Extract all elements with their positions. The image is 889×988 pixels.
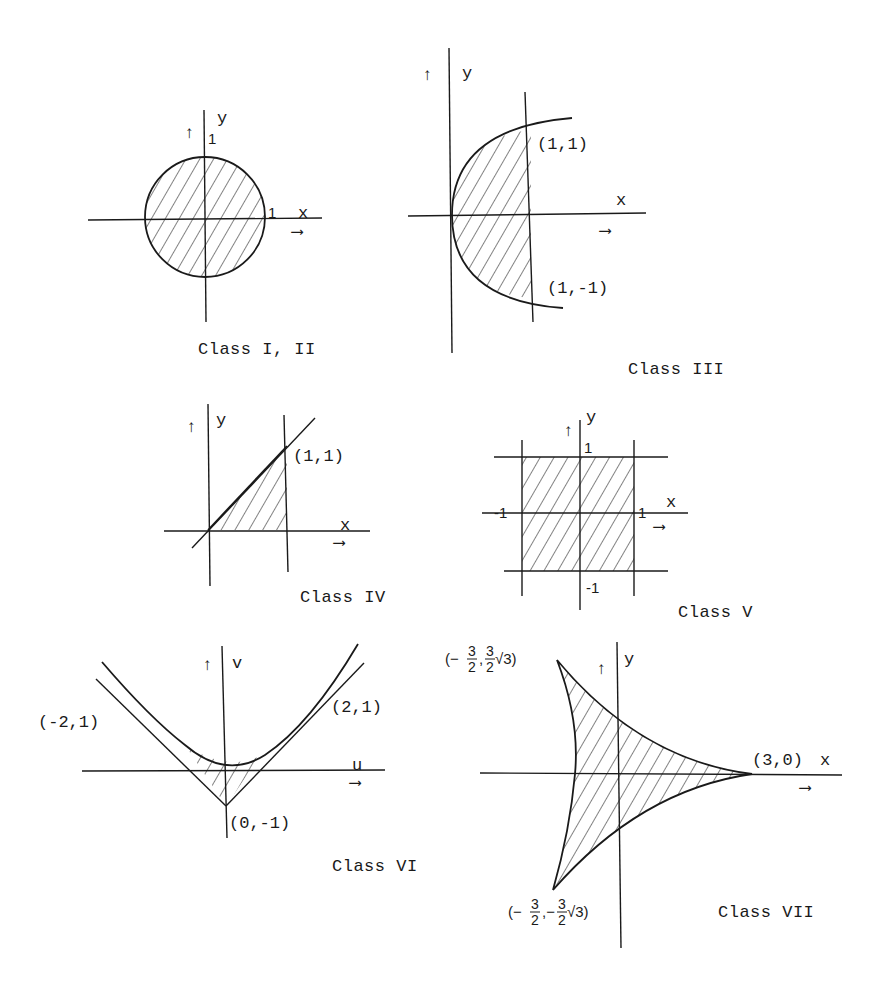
up-arrow-icon: ↑ — [596, 660, 606, 679]
hatched-region — [205, 440, 290, 532]
up-arrow-icon: ↑ — [202, 656, 212, 675]
point-label-1-1: (1,1) — [537, 135, 588, 154]
point-label-2-1: (2,1) — [331, 698, 382, 717]
svg-text:,−: ,− — [542, 903, 555, 920]
x-axis-label: x — [616, 191, 626, 210]
tick-x-1: 1 — [638, 504, 646, 521]
x-axis-label: x — [666, 493, 676, 512]
panel-class-5: ↑ ⟶ y x 1 -1 -1 1 Class V — [482, 408, 753, 622]
u-axis-label: u — [352, 756, 362, 775]
y-axis-label: y — [586, 408, 596, 427]
panel-class-4: ↑ ⟶ y x (1,1) Class IV — [164, 404, 386, 607]
v-axis — [222, 646, 227, 838]
right-arrow-icon: ⟶ — [333, 534, 346, 553]
y-axis-label: y — [624, 650, 634, 669]
u-axis — [82, 770, 385, 771]
v-axis-label: v — [232, 654, 242, 673]
tangent-right — [226, 663, 364, 806]
svg-text:(−: (− — [445, 650, 459, 667]
svg-text:2: 2 — [531, 912, 539, 928]
svg-text:,: , — [479, 650, 483, 667]
svg-text:3: 3 — [486, 643, 494, 659]
point-label-3-0: (3,0) — [752, 751, 803, 770]
svg-text:3: 3 — [531, 896, 539, 912]
parabola — [102, 644, 358, 765]
x-axis-label: x — [298, 204, 308, 223]
right-arrow-icon: ⟶ — [599, 222, 612, 241]
up-arrow-icon: ↑ — [563, 422, 573, 441]
panel-class-6: ↑ ⟶ v u (-2,1) (2,1) (0,-1) Class VI — [38, 644, 418, 876]
hatched-region — [522, 457, 634, 571]
svg-text:3: 3 — [468, 643, 476, 659]
x-axis — [480, 773, 842, 775]
y-axis — [208, 404, 210, 586]
panel-class-7: ↑ ⟶ y x (3,0) (− 3 2 , 3 2 √3) (− 3 2 ,−… — [445, 642, 842, 948]
right-arrow-icon: ⟶ — [349, 774, 362, 793]
y-axis-label: y — [217, 109, 227, 128]
panel-class-3: ↑ ⟶ y x (1,1) (1,-1) Class III — [408, 48, 724, 379]
svg-text:√3): √3) — [495, 650, 517, 667]
caption-class-4: Class IV — [300, 588, 386, 607]
svg-text:√3): √3) — [567, 903, 589, 920]
figure-canvas: ↑ ⟶ y x 1 1 Class I, II ↑ ⟶ y x (1,1) (1… — [0, 0, 889, 988]
svg-text:2: 2 — [486, 659, 494, 675]
x-axis-label: x — [340, 516, 350, 535]
panel-class-1-2: ↑ ⟶ y x 1 1 Class I, II — [88, 109, 322, 359]
y-axis — [449, 48, 452, 353]
point-label-bottom-cusp: (− 3 2 ,− 3 2 √3) — [508, 896, 589, 928]
point-label-1-1: (1,1) — [293, 447, 344, 466]
tick-x-neg1: -1 — [494, 504, 507, 521]
right-arrow-icon: ⟶ — [291, 223, 304, 242]
svg-text:2: 2 — [558, 912, 566, 928]
tick-x-1: 1 — [268, 204, 276, 221]
up-arrow-icon: ↑ — [422, 66, 432, 85]
caption-class-6: Class VI — [332, 857, 418, 876]
svg-text:(−: (− — [508, 903, 522, 920]
right-arrow-icon: ⟶ — [799, 779, 812, 798]
up-arrow-icon: ↑ — [184, 124, 194, 143]
point-label-top-cusp: (− 3 2 , 3 2 √3) — [445, 643, 517, 675]
point-label-0-neg1: (0,-1) — [229, 814, 290, 833]
svg-text:3: 3 — [558, 896, 566, 912]
x-axis-label: x — [820, 751, 830, 770]
tick-y-1: 1 — [584, 439, 592, 456]
point-label-neg2-1: (-2,1) — [38, 713, 99, 732]
right-arrow-icon: ⟶ — [653, 518, 666, 537]
caption-class-7: Class VII — [718, 903, 814, 922]
tangent-left — [96, 679, 226, 806]
caption-class-5: Class V — [678, 603, 753, 622]
caption-class-1-2: Class I, II — [198, 340, 316, 359]
y-axis-label: y — [216, 411, 226, 430]
caption-class-3: Class III — [628, 360, 724, 379]
up-arrow-icon: ↑ — [186, 418, 196, 437]
tick-y-1: 1 — [208, 130, 216, 147]
y-axis-label: y — [462, 64, 472, 83]
svg-text:2: 2 — [468, 659, 476, 675]
tick-y-neg1: -1 — [586, 579, 599, 596]
point-label-1-neg1: (1,-1) — [547, 279, 608, 298]
y-axis — [204, 110, 206, 322]
